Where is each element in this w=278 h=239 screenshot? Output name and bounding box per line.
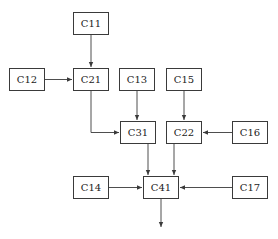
node-label: C12 xyxy=(17,74,37,85)
node-label: C14 xyxy=(81,182,101,193)
edge-c21-c31 xyxy=(91,91,119,133)
node-c22: C22 xyxy=(166,121,202,144)
node-c11: C11 xyxy=(73,12,109,35)
edges-layer xyxy=(0,0,278,239)
node-c12: C12 xyxy=(9,68,45,91)
node-c16: C16 xyxy=(232,121,268,144)
node-label: C41 xyxy=(151,182,171,193)
node-label: C13 xyxy=(127,74,147,85)
node-label: C16 xyxy=(240,127,260,138)
node-label: C15 xyxy=(174,74,194,85)
node-c14: C14 xyxy=(73,176,109,199)
node-c21: C21 xyxy=(73,68,109,91)
node-c31: C31 xyxy=(120,121,156,144)
node-c17: C17 xyxy=(232,176,268,199)
node-label: C21 xyxy=(81,74,101,85)
node-c13: C13 xyxy=(119,68,155,91)
flow-diagram: C11 C12 C21 C13 C15 C31 C22 C16 C14 C41 … xyxy=(0,0,278,239)
node-label: C31 xyxy=(128,127,148,138)
node-label: C17 xyxy=(240,182,260,193)
node-label: C11 xyxy=(81,18,101,29)
node-c41: C41 xyxy=(143,176,179,199)
node-label: C22 xyxy=(174,127,194,138)
node-c15: C15 xyxy=(166,68,202,91)
